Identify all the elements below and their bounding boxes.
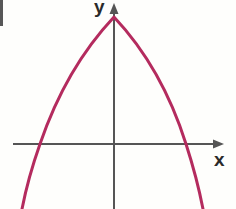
parabola-figure: y x [0, 0, 236, 209]
x-axis-arrowhead [213, 140, 224, 149]
coordinate-plot [0, 0, 236, 209]
y-axis-arrowhead [110, 3, 119, 14]
x-axis-label: x [214, 150, 225, 169]
axes-group [13, 3, 224, 209]
y-axis-label: y [94, 0, 105, 16]
parabola-curve [22, 17, 203, 209]
